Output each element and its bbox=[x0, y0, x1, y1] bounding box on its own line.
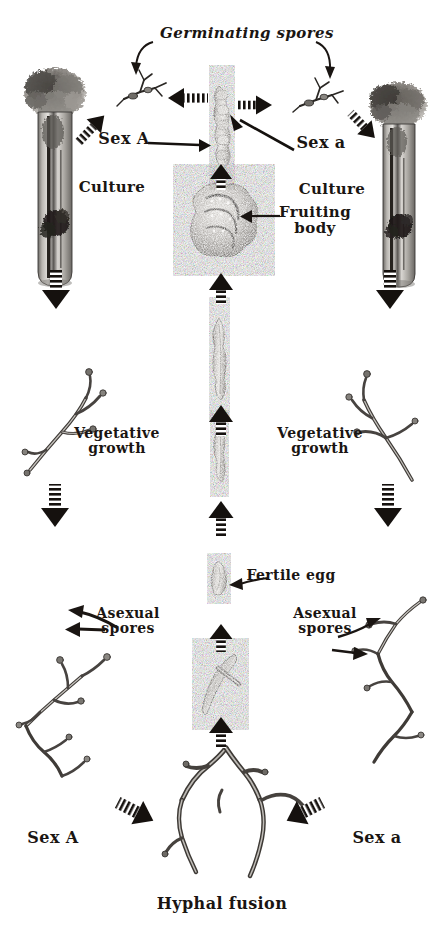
arrow-ascus-to-fruiting bbox=[209, 273, 233, 304]
label-sex-a-lower-right: Sex a bbox=[344, 830, 410, 847]
vegetative-mycelium-left bbox=[22, 369, 106, 476]
germinating-spore-right bbox=[293, 78, 343, 112]
arrow-culture-to-vegetative-right bbox=[376, 270, 404, 309]
arrow-lower-ascus-to-ascus bbox=[209, 405, 233, 436]
arrow-sexA-to-fusion bbox=[112, 791, 159, 832]
label-hyphal-fusion: Hyphal fusion bbox=[142, 896, 302, 913]
arrow-chain-to-spore-left bbox=[168, 88, 208, 108]
germinating-spore-left bbox=[117, 70, 166, 106]
label-germinating-spores: Germinating spores bbox=[160, 26, 290, 42]
arrow-hypha-to-egg bbox=[210, 624, 233, 652]
label-culture-right: Culture bbox=[296, 182, 368, 198]
label-fertile-egg: Fertile egg bbox=[243, 568, 339, 583]
hyphal-fusion-mycelium bbox=[162, 748, 311, 876]
arrow-sexa-to-fusion bbox=[281, 791, 328, 832]
label-culture-left: Culture bbox=[76, 180, 148, 196]
fertile-egg bbox=[211, 562, 227, 595]
label-vegetative-growth-right: Vegetative growth bbox=[277, 426, 363, 456]
spore-chain-center bbox=[214, 86, 231, 169]
leader-fruiting-body bbox=[240, 210, 280, 223]
label-asexual-spores-left: Asexual spores bbox=[88, 606, 168, 636]
label-sex-a-upper-left: Sex A bbox=[96, 131, 152, 148]
culture-tube-right bbox=[369, 82, 427, 288]
arrow-vegetative-to-asexual-left bbox=[41, 484, 69, 527]
arrow-culture-to-vegetative-left bbox=[42, 270, 70, 309]
arrow-sexa-to-chain bbox=[230, 115, 294, 151]
ascus-lower bbox=[214, 425, 226, 482]
label-asexual-spores-right: Asexual spores bbox=[285, 606, 365, 636]
label-sex-a-upper-right: Sex a bbox=[292, 135, 350, 152]
culture-tube-left bbox=[24, 68, 86, 287]
diagram-vector-layer bbox=[0, 0, 443, 944]
leader-germinating-left bbox=[131, 42, 153, 75]
arrow-fruiting-to-chain bbox=[210, 164, 232, 190]
ascus-upper bbox=[213, 318, 227, 400]
label-vegetative-growth-left: Vegetative growth bbox=[74, 426, 160, 456]
label-sex-a-lower-left: Sex A bbox=[20, 830, 86, 847]
asexual-spore-mycelium-left bbox=[16, 654, 110, 776]
arrow-egg-to-ascus bbox=[209, 501, 234, 536]
arrow-vegetative-to-asexual-right bbox=[374, 484, 402, 527]
life-cycle-figure: Germinating spores Sex A Sex a Culture C… bbox=[0, 0, 443, 944]
label-fruiting-body: Fruiting body bbox=[277, 205, 353, 237]
arrow-chain-to-spore-right bbox=[238, 96, 272, 115]
fruiting-body bbox=[190, 183, 258, 257]
arrow-sexA-to-chain bbox=[148, 139, 211, 152]
arrow-fusion-to-hypha bbox=[209, 717, 233, 748]
leader-germinating-right bbox=[316, 42, 335, 79]
leader-asexual-right bbox=[332, 647, 368, 660]
fusing-hypha bbox=[202, 654, 239, 715]
